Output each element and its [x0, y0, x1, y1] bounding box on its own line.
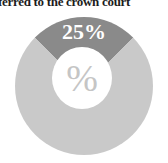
headline-text: ferred to the crown court — [0, 0, 130, 9]
center-percent-symbol: % — [66, 59, 98, 97]
donut-chart: % 25% — [15, 17, 153, 155]
screenshot-root: ferred to the crown court % 25% — [0, 0, 168, 163]
donut-hole: % — [52, 47, 112, 109]
slice-value-label: 25% — [15, 20, 153, 44]
